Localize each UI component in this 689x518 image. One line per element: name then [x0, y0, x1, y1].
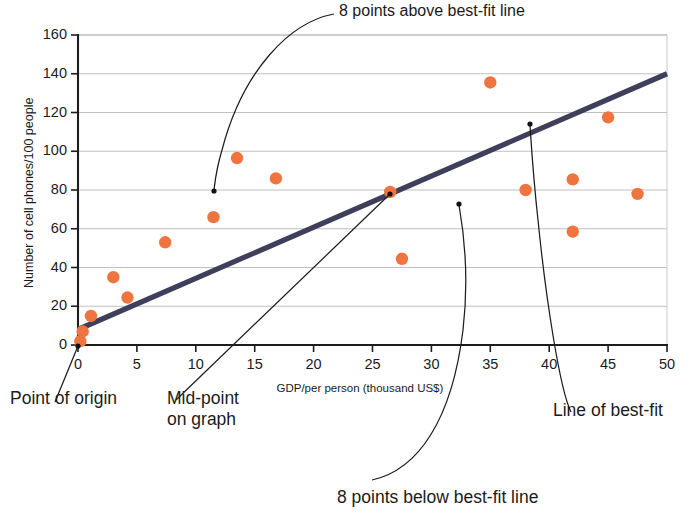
annotation-mid-point: Mid-point on graph — [167, 388, 239, 429]
x-tick-label: 35 — [470, 356, 510, 372]
x-tick-label: 45 — [588, 356, 628, 372]
chart-figure: 8 points above best-fit line 8 points be… — [0, 0, 689, 518]
y-tick-label: 160 — [43, 26, 67, 42]
x-tick-label: 50 — [647, 356, 687, 372]
y-tick-label: 100 — [43, 142, 67, 158]
x-tick-label: 40 — [529, 356, 569, 372]
annotation-mid-point-line2: on graph — [167, 409, 239, 430]
y-tick-label: 0 — [59, 336, 67, 352]
annotation-point-of-origin: Point of origin — [10, 388, 117, 409]
annotation-points-above: 8 points above best-fit line — [339, 2, 525, 21]
x-tick-label: 25 — [353, 356, 393, 372]
chart-canvas — [0, 0, 689, 518]
y-tick-label: 140 — [43, 65, 67, 81]
annotation-mid-point-line1: Mid-point — [167, 388, 239, 409]
x-tick-label: 0 — [58, 356, 98, 372]
y-axis-title: Number of cell phones/100 people — [22, 98, 36, 288]
x-tick-label: 15 — [235, 356, 275, 372]
x-tick-label: 20 — [294, 356, 334, 372]
y-tick-label: 20 — [51, 297, 67, 313]
y-tick-label: 120 — [43, 104, 67, 120]
x-tick-label: 5 — [117, 356, 157, 372]
annotation-line-of-best-fit: Line of best-fit — [553, 400, 663, 421]
y-tick-label: 40 — [51, 259, 67, 275]
x-tick-label: 30 — [411, 356, 451, 372]
gridlines — [78, 35, 667, 345]
y-tick-label: 80 — [51, 181, 67, 197]
x-axis-title: GDP/per person (thousand US$) — [277, 382, 444, 394]
x-tick-label: 10 — [176, 356, 216, 372]
axis-lines — [76, 34, 668, 345]
y-tick-label: 60 — [51, 220, 67, 236]
annotation-points-below: 8 points below best-fit line — [337, 487, 538, 508]
